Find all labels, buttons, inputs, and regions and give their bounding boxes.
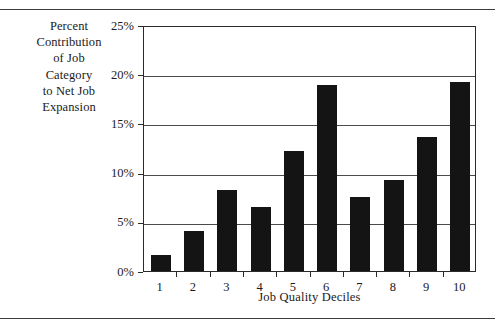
- y-tick-label-0pct: 0%: [117, 266, 134, 279]
- x-tick-mark-8: [409, 272, 410, 277]
- x-tick-mark-2: [210, 272, 211, 277]
- x-tick-mark-4: [276, 272, 277, 277]
- x-tick-mark-5: [310, 272, 311, 277]
- plot-area: [143, 26, 476, 272]
- y-tick-label-10pct: 10%: [111, 167, 134, 180]
- bar-decile-9: [417, 137, 437, 271]
- bar-decile-4: [251, 207, 271, 271]
- bar-decile-10: [450, 82, 470, 271]
- x-tick-mark-9: [443, 272, 444, 277]
- y-axis-ticks: 0%5%10%15%20%25%: [0, 0, 143, 300]
- x-tick-mark-7: [376, 272, 377, 277]
- page-rule-bottom: [0, 318, 495, 319]
- y-tick-label-20pct: 20%: [111, 69, 134, 82]
- x-tick-mark-1: [176, 272, 177, 277]
- y-tick-label-15pct: 15%: [111, 118, 134, 131]
- x-tick-mark-3: [243, 272, 244, 277]
- bar-series: [144, 27, 475, 271]
- bar-decile-3: [217, 190, 237, 271]
- bar-decile-5: [284, 151, 304, 271]
- bar-decile-7: [350, 197, 370, 271]
- bar-decile-1: [151, 255, 171, 271]
- y-tick-label-5pct: 5%: [117, 216, 134, 229]
- x-axis-title: Job Quality Deciles: [143, 290, 476, 304]
- x-tick-mark-6: [343, 272, 344, 277]
- figure-container: PercentContributionof JobCategoryto Net …: [0, 0, 495, 331]
- bar-decile-2: [184, 231, 204, 271]
- bar-decile-8: [384, 180, 404, 271]
- y-tick-label-25pct: 25%: [111, 20, 134, 33]
- bar-decile-6: [317, 85, 337, 271]
